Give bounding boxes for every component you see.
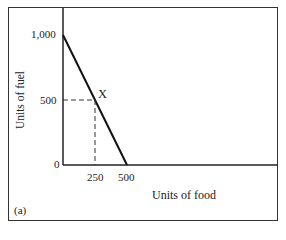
x-tick-250: 250 xyxy=(87,171,104,183)
x-axis-label: Units of food xyxy=(152,188,216,203)
y-tick-500: 500 xyxy=(40,94,57,106)
point-x-label: X xyxy=(98,87,107,102)
y-tick-1000: 1,000 xyxy=(31,28,56,40)
y-axis-label: Units of fuel xyxy=(14,71,26,129)
panel-label: (a) xyxy=(14,204,26,216)
x-tick-500: 500 xyxy=(118,171,135,183)
y-tick-0: 0 xyxy=(54,158,60,170)
